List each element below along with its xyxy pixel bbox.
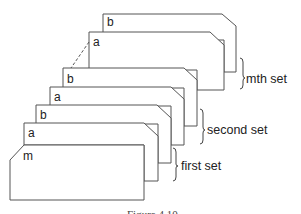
- card-m: m: [10, 145, 144, 200]
- figure-caption: Figure 4.10: [127, 208, 178, 214]
- card-label: b: [107, 15, 114, 29]
- ellipsis-connector: [71, 42, 89, 68]
- set-label-first: first set: [181, 159, 222, 173]
- card-label: a: [93, 35, 100, 49]
- card-deck-diagram: b a b a b a m mth set second set first s…: [0, 0, 301, 214]
- card-label: a: [28, 126, 35, 140]
- brace-mth-set: [240, 58, 245, 89]
- set-label-mth: mth set: [246, 72, 288, 86]
- set-label-second: second set: [207, 123, 268, 137]
- card-label: b: [40, 108, 47, 122]
- card-label: m: [23, 149, 33, 163]
- card-label: b: [67, 72, 74, 86]
- brace-second-set: [200, 109, 205, 144]
- brace-first-set: [173, 148, 178, 181]
- card-label: a: [54, 90, 61, 104]
